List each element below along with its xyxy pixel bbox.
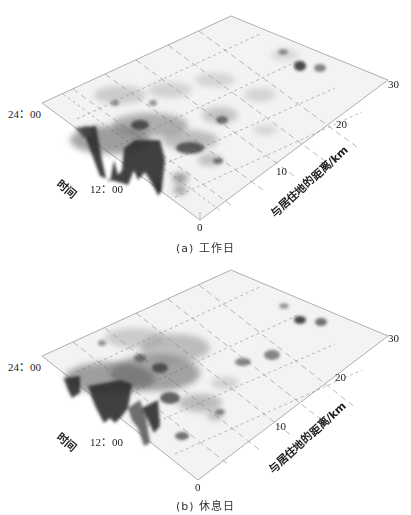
chart-panel-restday: 24：00 12：00 时间 0 10 20 30 与居住地的距离/km (b)… (0, 258, 411, 515)
surface-plot-restday (0, 258, 411, 515)
chart-panel-workday: 24：00 12：00 时间 0 10 20 30 与居住地的距离/km (a)… (0, 0, 411, 258)
caption-restday: (b) 休息日 (176, 497, 235, 513)
dist-tick-0: 0 (197, 221, 203, 233)
surface-plot-workday (0, 0, 411, 258)
time-tick-12: 12：00 (90, 433, 123, 449)
dist-tick-0: 0 (195, 481, 201, 493)
dist-tick-20: 20 (335, 371, 346, 383)
caption-workday: (a) 工作日 (176, 239, 235, 255)
dist-tick-30: 30 (388, 78, 399, 90)
dist-tick-30: 30 (388, 332, 399, 344)
time-tick-12: 12：00 (90, 180, 123, 196)
time-tick-24: 24：00 (8, 358, 41, 374)
time-tick-24: 24：00 (8, 105, 41, 121)
dist-tick-10: 10 (276, 165, 287, 177)
dist-tick-20: 20 (336, 118, 347, 130)
dist-tick-10: 10 (275, 420, 286, 432)
